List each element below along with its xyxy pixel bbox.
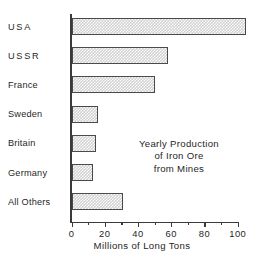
- x-tick: [72, 222, 73, 227]
- bar-usa: [72, 18, 247, 35]
- x-tick-label: 60: [166, 228, 177, 239]
- bar-france: [72, 76, 155, 93]
- x-minor-tick: [155, 222, 156, 225]
- x-tick: [138, 222, 139, 227]
- bar-row: All Others: [0, 193, 256, 210]
- bar-britain: [72, 135, 97, 152]
- bar-ussr: [72, 47, 168, 64]
- bar-row: Sweden: [0, 106, 256, 123]
- x-tick-label: 100: [229, 228, 246, 239]
- chart-annotation: Yearly Production of Iron Ore from Mines: [113, 138, 245, 175]
- bar-label-ussr: USSR: [8, 51, 72, 61]
- annotation-line-1: Yearly Production: [113, 138, 245, 150]
- annotation-line-2: of Iron Ore: [113, 150, 245, 162]
- x-tick-label: 40: [132, 228, 143, 239]
- x-minor-tick: [221, 222, 222, 225]
- bar-row: France: [0, 76, 256, 93]
- x-tick: [171, 222, 172, 227]
- bar-row: USSR: [0, 47, 256, 64]
- bar-all-others: [72, 193, 124, 210]
- x-tick-label: 80: [199, 228, 210, 239]
- x-tick: [204, 222, 205, 227]
- x-minor-tick: [88, 222, 89, 225]
- bar-label-britain: Britain: [8, 138, 72, 148]
- bar-label-sweden: Sweden: [8, 109, 72, 119]
- bar-label-usa: USA: [8, 22, 72, 32]
- bar-label-germany: Germany: [8, 168, 72, 178]
- x-minor-tick: [121, 222, 122, 225]
- bar-label-france: France: [8, 80, 72, 90]
- annotation-line-3: from Mines: [113, 163, 245, 175]
- bar-row: USA: [0, 18, 256, 35]
- x-tick-label: 0: [69, 228, 75, 239]
- x-axis-title: Millions of Long Tons: [0, 240, 256, 251]
- x-tick: [238, 222, 239, 227]
- iron-ore-production-bar-chart: USAUSSRFranceSwedenBritainGermanyAll Oth…: [0, 0, 256, 261]
- bar-sweden: [72, 106, 99, 123]
- x-tick: [105, 222, 106, 227]
- bottom-caption: [10, 254, 256, 261]
- bar-label-all-others: All Others: [8, 197, 72, 207]
- x-tick-label: 20: [99, 228, 110, 239]
- bar-germany: [72, 164, 94, 181]
- x-minor-tick: [188, 222, 189, 225]
